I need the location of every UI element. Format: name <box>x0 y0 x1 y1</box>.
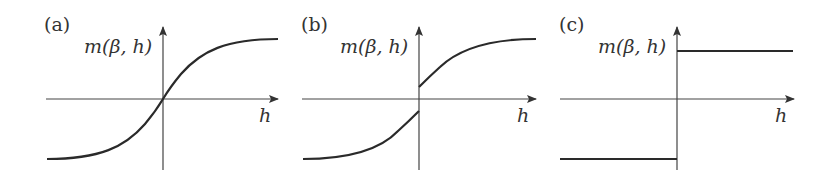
panel-label-c: (c) <box>559 13 584 35</box>
x-axis-label-a: h <box>259 104 271 126</box>
y-axis-label-c: m(β, h) <box>598 35 666 57</box>
panel-label-b: (b) <box>301 13 328 35</box>
curve-b-positive-branch <box>419 39 536 87</box>
panel-b: (b) m(β, h) h <box>301 13 536 170</box>
x-axis-label-c: h <box>775 104 787 126</box>
magnetization-figure: (a) m(β, h) h (b) m(β, h) h (c) m(β, h) … <box>0 0 834 179</box>
panel-a: (a) m(β, h) h <box>44 13 278 170</box>
panel-c: (c) m(β, h) h <box>559 13 794 170</box>
x-axis-label-b: h <box>517 104 529 126</box>
y-axis-label-a: m(β, h) <box>84 35 152 57</box>
panel-label-a: (a) <box>44 13 70 35</box>
curve-b-negative-branch <box>303 111 419 159</box>
y-axis-label-b: m(β, h) <box>340 35 408 57</box>
